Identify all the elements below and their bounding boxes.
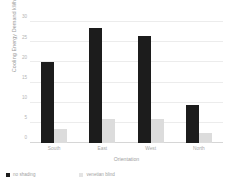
x-axis-tick-labels: SouthEastWestNorth (30, 146, 223, 151)
bar (186, 105, 199, 143)
legend-item-venetian-blind: venetian blind (79, 172, 114, 177)
x-axis-title: Orientation (30, 156, 223, 162)
bar (89, 28, 102, 143)
legend-swatch-icon (79, 173, 83, 177)
bar (199, 133, 212, 143)
y-tick-label: 25 (22, 35, 27, 40)
y-tick-label: 20 (22, 55, 27, 60)
legend-label: no shading (13, 172, 35, 177)
bar-group (41, 22, 67, 143)
bar-group (89, 22, 115, 143)
bar (41, 62, 54, 143)
x-tick-label: West (127, 146, 175, 151)
cooling-energy-demand-chart: Cooling Energy Demand kWh/m2y 0510152025… (0, 0, 231, 185)
legend-label: venetian blind (86, 172, 114, 177)
y-axis-title-text: Cooling Energy Demand (11, 11, 17, 72)
bar-group (138, 22, 164, 143)
bar-groups (30, 22, 223, 143)
bar (102, 119, 115, 143)
y-axis-unit: kWh/m2y (12, 0, 17, 10)
x-tick-label: North (175, 146, 223, 151)
y-tick-label: 0 (24, 136, 27, 141)
bar (138, 36, 151, 143)
y-axis-title: Cooling Energy Demand kWh/m2y (11, 0, 17, 89)
x-tick-label: South (30, 146, 78, 151)
bar-group (186, 22, 212, 143)
x-tick-label: East (78, 146, 126, 151)
bar (151, 119, 164, 143)
y-tick-label: 5 (24, 116, 27, 121)
legend-item-no-shading: no shading (6, 172, 35, 177)
bar (54, 129, 67, 143)
plot-area: 051015202530 (30, 22, 223, 143)
legend: no shading venetian blind (6, 172, 216, 177)
y-tick-label: 15 (22, 76, 27, 81)
y-tick-label: 30 (22, 15, 27, 20)
legend-swatch-icon (6, 173, 10, 177)
y-tick-label: 10 (22, 96, 27, 101)
